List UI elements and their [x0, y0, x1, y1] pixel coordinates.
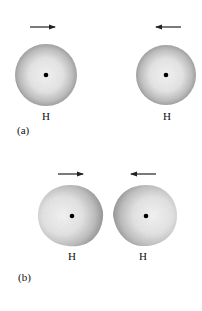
atom-label-a-right: H — [163, 110, 171, 122]
nucleus-left — [70, 214, 75, 219]
hydrogen-approach-diagram — [0, 0, 202, 311]
nucleus-right — [164, 73, 169, 78]
nucleus-right — [144, 214, 149, 219]
atom-label-a-left: H — [42, 110, 50, 122]
nucleus-left — [44, 73, 49, 78]
panel-a — [15, 27, 196, 106]
panel-label-b: (b) — [18, 271, 31, 283]
atom-label-b-left: H — [68, 250, 76, 262]
atom-label-b-right: H — [139, 250, 147, 262]
panel-b — [38, 174, 177, 246]
panel-label-a: (a) — [17, 124, 29, 136]
